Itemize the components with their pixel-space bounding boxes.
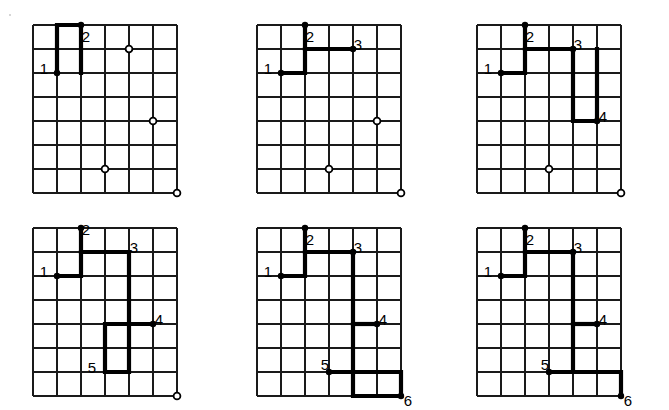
open-marker [398,190,405,197]
open-marker [102,166,109,173]
step-label-2: 2 [526,231,534,248]
open-marker [546,166,553,173]
step-label-1: 1 [484,263,492,280]
step-5-panel: 123456 [243,214,415,410]
step-label-2: 2 [82,221,90,238]
step-label-5: 5 [88,359,96,376]
path-vertex-dot [498,273,504,279]
step-label-5: 5 [321,356,329,373]
step-label-2: 2 [306,28,314,45]
step-label-2: 2 [82,28,90,45]
open-marker [150,118,157,125]
step-label-5: 5 [541,356,549,373]
step-2-panel: 123 [243,11,415,207]
open-marker [174,393,181,400]
step-label-4: 4 [155,311,163,328]
path-vertex-dot [54,273,60,279]
step-label-3: 3 [354,239,362,256]
step-label-2: 2 [526,28,534,45]
step-label-4: 4 [599,311,607,328]
path-vertex-dot [498,70,504,76]
step-label-4: 4 [599,108,607,125]
step-label-3: 3 [574,239,582,256]
path-vertex-dot [54,70,60,76]
step-6-panel: 123456 [463,214,635,410]
open-marker [618,190,625,197]
step-label-3: 3 [574,36,582,53]
open-marker [126,46,133,53]
step-4-panel: 12345 [19,214,191,410]
step-label-6: 6 [624,392,632,409]
step-label-6: 6 [404,392,412,409]
step-label-1: 1 [40,60,48,77]
step-label-4: 4 [379,311,387,328]
step-label-3: 3 [130,239,138,256]
step-label-1: 1 [264,263,272,280]
step-label-1: 1 [264,60,272,77]
step-1-panel: 12 [19,11,191,207]
path-vertex-dot [278,273,284,279]
open-marker [174,190,181,197]
open-marker [374,118,381,125]
step-label-1: 1 [40,263,48,280]
path-vertex-dot [278,70,284,76]
step-label-3: 3 [354,36,362,53]
open-marker [326,166,333,173]
step-label-1: 1 [484,60,492,77]
step-3-panel: 1234 [463,11,635,207]
step-label-2: 2 [306,231,314,248]
scan-speck [9,14,11,16]
